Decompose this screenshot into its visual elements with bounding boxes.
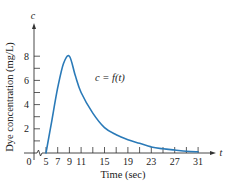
x-tick-label: 15 — [100, 156, 110, 167]
y-tick-label: 2 — [24, 123, 29, 134]
x-tick-label: 11 — [76, 156, 86, 167]
y-axis-title: Dye concentration (mg/L) — [4, 42, 16, 152]
origin-label: 0 — [27, 156, 32, 167]
x-axis-title: Time (sec) — [101, 169, 146, 181]
x-axis-arrow-icon — [210, 151, 216, 155]
y-axis: 2468 c — [24, 10, 40, 160]
y-axis-symbol: c — [31, 10, 36, 21]
x-axis-symbol: t — [220, 147, 223, 158]
y-tick-label: 6 — [24, 75, 29, 86]
x-axis: 579111519232731 0 t — [24, 147, 223, 167]
x-tick-label: 5 — [44, 156, 49, 167]
y-tick-label: 4 — [24, 99, 29, 110]
y-axis-arrow-icon — [32, 23, 36, 29]
axis-break-icon — [37, 150, 42, 156]
x-tick-label: 27 — [170, 156, 180, 167]
x-tick-label: 23 — [146, 156, 156, 167]
x-tick-label: 7 — [55, 156, 60, 167]
dye-concentration-chart: Dye concentration (mg/L) 2468 c 57911151… — [0, 0, 236, 192]
x-tick-label: 9 — [67, 156, 72, 167]
concentration-curve — [46, 56, 198, 153]
x-tick-label: 31 — [193, 156, 203, 167]
y-tick-label: 8 — [24, 51, 29, 62]
x-tick-label: 19 — [123, 156, 133, 167]
curve-label: c = f(t) — [95, 72, 125, 84]
